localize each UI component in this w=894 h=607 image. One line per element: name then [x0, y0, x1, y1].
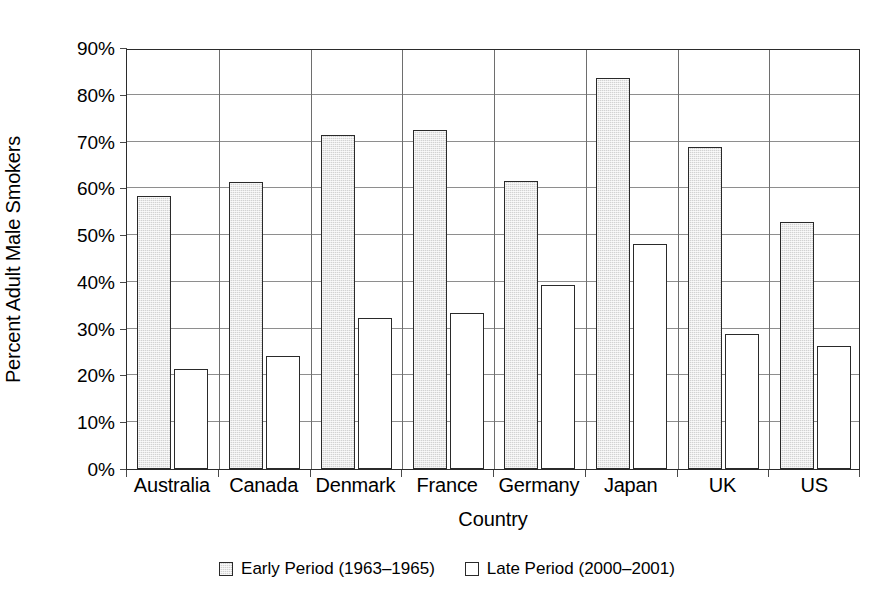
- bar-group: [311, 50, 403, 469]
- bar-australia-late: [174, 369, 208, 469]
- bar-group: [678, 50, 770, 469]
- y-axis-tick-labels: 0%10%20%30%40%50%60%70%80%90%: [56, 49, 120, 470]
- x-axis-label-denmark: Denmark: [316, 474, 396, 497]
- bar-japan-early: [596, 78, 630, 469]
- y-axis-title: Percent Adult Male Smokers: [0, 49, 26, 470]
- x-axis-label-australia: Australia: [134, 474, 210, 497]
- x-axis-label-canada: Canada: [229, 474, 298, 497]
- bar-france-early: [413, 130, 447, 469]
- legend-swatch-early: [219, 562, 233, 576]
- bar-chart-figure: Percent Adult Male Smokers 0%10%20%30%40…: [0, 0, 894, 607]
- bar-group: [127, 50, 219, 469]
- x-axis-label-france: France: [417, 474, 478, 497]
- bar-group: [769, 50, 861, 469]
- bar-denmark-early: [321, 135, 355, 469]
- x-axis-label-germany: Germany: [498, 474, 579, 497]
- plot-area: [126, 49, 860, 470]
- bar-group: [219, 50, 311, 469]
- bar-us-late: [817, 346, 851, 469]
- bar-us-early: [780, 222, 814, 469]
- bar-canada-late: [266, 356, 300, 469]
- x-axis-label-japan: Japan: [604, 474, 658, 497]
- bar-germany-early: [504, 181, 538, 469]
- bar-group: [586, 50, 678, 469]
- x-axis-tick-labels: AustraliaCanadaDenmarkFranceGermanyJapan…: [126, 474, 860, 502]
- legend-label: Late Period (2000–2001): [487, 559, 675, 579]
- bar-uk-early: [688, 147, 722, 469]
- x-axis-label-uk: UK: [709, 474, 736, 497]
- x-axis-title: Country: [126, 508, 860, 531]
- x-axis-label-us: US: [800, 474, 827, 497]
- bar-australia-early: [137, 196, 171, 469]
- bar-uk-late: [725, 334, 759, 469]
- bar-denmark-late: [358, 318, 392, 469]
- bar-group: [402, 50, 494, 469]
- legend-entry-late: Late Period (2000–2001): [465, 559, 675, 579]
- bar-germany-late: [541, 285, 575, 469]
- bar-japan-late: [633, 244, 667, 469]
- bar-france-late: [450, 313, 484, 469]
- bar-canada-early: [229, 182, 263, 469]
- legend-swatch-late: [465, 562, 479, 576]
- legend-entry-early: Early Period (1963–1965): [219, 559, 435, 579]
- chart-legend: Early Period (1963–1965)Late Period (200…: [0, 559, 894, 579]
- bar-group: [494, 50, 586, 469]
- legend-label: Early Period (1963–1965): [241, 559, 435, 579]
